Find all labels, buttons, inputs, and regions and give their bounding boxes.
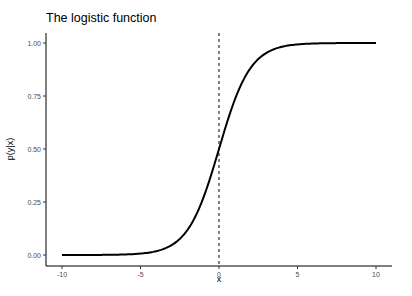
y-axis-title: p(y|x) xyxy=(5,138,15,160)
logistic-chart: 0.000.250.500.751.00-10-50510 x p(y|x) xyxy=(0,0,412,296)
x-tick-label: -5 xyxy=(137,271,143,278)
y-tick-label: 1.00 xyxy=(27,40,41,47)
x-tick-label: -10 xyxy=(57,271,67,278)
y-tick-label: 0.50 xyxy=(27,146,41,153)
x-tick-label: 5 xyxy=(296,271,300,278)
x-axis-title: x xyxy=(217,274,222,284)
y-tick-label: 0.25 xyxy=(27,199,41,206)
x-tick-label: 10 xyxy=(372,271,380,278)
ticks: 0.000.250.500.751.00-10-50510 xyxy=(27,40,380,279)
y-tick-label: 0.75 xyxy=(27,93,41,100)
logistic-curve xyxy=(62,43,376,255)
y-tick-label: 0.00 xyxy=(27,252,41,259)
